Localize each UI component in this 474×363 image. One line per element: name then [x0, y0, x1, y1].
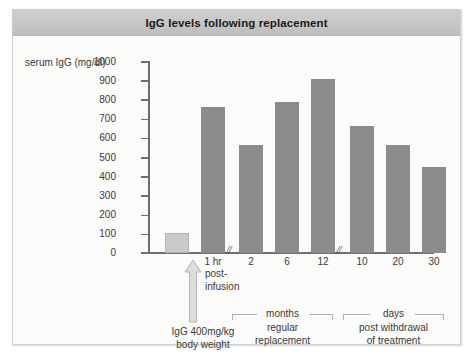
x-label-20: 20 [378, 256, 418, 267]
bar-2-months [239, 145, 263, 254]
y-tick-800 [141, 99, 148, 101]
x-label-2: 2 [231, 256, 271, 267]
figure-title-band: IgG levels following replacement [13, 10, 460, 36]
bar-1hr [201, 107, 225, 253]
x-label-30: 30 [414, 256, 454, 267]
months-label: months [232, 308, 333, 321]
y-tick-200 [141, 215, 148, 217]
injection-arrow-icon [184, 259, 202, 323]
y-tick-0 [141, 252, 148, 254]
y-tick-900 [141, 80, 148, 82]
y-tick-600 [141, 138, 148, 140]
days-sub-line1: post withdrawal [338, 322, 449, 335]
y-tick-label-300: 300 [76, 191, 116, 201]
y-tick-label-0: 0 [76, 248, 116, 258]
y-tick-label-700: 700 [76, 114, 116, 124]
figure-root: IgG levels following replacement serum I… [0, 0, 474, 363]
bar-20-days [386, 145, 410, 254]
y-tick-label-1000: 1000 [76, 57, 116, 67]
days-label: days [343, 308, 444, 321]
months-sublabel: regular replacement [232, 322, 333, 347]
y-tick-300 [141, 195, 148, 197]
bar-pre-infusion [165, 233, 189, 253]
bar-12-months [311, 79, 335, 253]
y-tick-label-500: 500 [76, 153, 116, 163]
y-tick-label-200: 200 [76, 210, 116, 220]
days-sub-line2: of treatment [338, 335, 449, 348]
y-tick-700 [141, 119, 148, 121]
days-sublabel: post withdrawal of treatment [338, 322, 449, 347]
bar-30-days [422, 167, 446, 253]
y-tick-label-800: 800 [76, 95, 116, 105]
y-tick-label-400: 400 [76, 172, 116, 182]
months-sub-line1: regular [232, 322, 333, 335]
post-infusion-line2: infusion [205, 281, 239, 294]
bar-10-days [350, 126, 374, 253]
post-infusion-line1: post- [205, 268, 239, 281]
plot-area: 1000 900 800 700 600 500 400 300 200 100… [13, 37, 460, 344]
y-tick-label-100: 100 [76, 229, 116, 239]
y-tick-400 [141, 176, 148, 178]
y-tick-1000 [141, 61, 148, 63]
y-tick-100 [141, 234, 148, 236]
y-tick-label-600: 600 [76, 133, 116, 143]
x-label-10: 10 [342, 256, 382, 267]
bar-6-months [275, 102, 299, 253]
months-sub-line2: replacement [232, 335, 333, 348]
y-axis-line [148, 61, 150, 253]
chart-body: serum IgG (mg/dl) 1000 900 800 [13, 37, 460, 344]
y-tick-500 [141, 157, 148, 159]
post-infusion-note: post- infusion [205, 268, 239, 293]
x-label-12: 12 [303, 256, 343, 267]
figure-title: IgG levels following replacement [145, 17, 327, 29]
x-label-6: 6 [267, 256, 307, 267]
y-tick-label-900: 900 [76, 76, 116, 86]
figure-plate: IgG levels following replacement serum I… [12, 9, 461, 345]
